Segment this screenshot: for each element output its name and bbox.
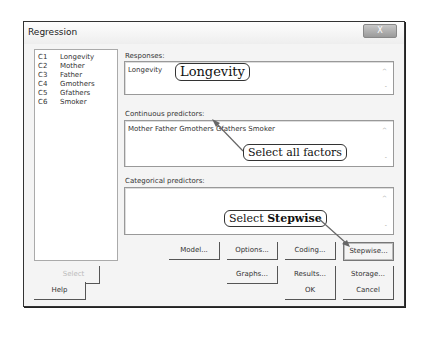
options-button[interactable]: Options... bbox=[227, 242, 278, 260]
help-button[interactable]: Help bbox=[34, 282, 86, 300]
variable-item[interactable]: C3Father bbox=[38, 71, 82, 79]
ok-button[interactable]: OK bbox=[285, 282, 336, 300]
annotation-select-stepwise: Select Stepwise bbox=[224, 210, 327, 227]
variable-item[interactable]: C4Gmothers bbox=[38, 80, 95, 88]
responses-value: Longevity bbox=[128, 66, 162, 74]
coding-button[interactable]: Coding... bbox=[285, 242, 336, 260]
scroll-up-icon[interactable]: ^ bbox=[382, 67, 387, 74]
continuous-label: Continuous predictors: bbox=[125, 110, 204, 118]
variable-item[interactable]: C6Smoker bbox=[38, 98, 87, 106]
close-button[interactable]: X bbox=[363, 24, 397, 38]
scroll-down-icon[interactable]: - bbox=[385, 221, 387, 228]
variable-item[interactable]: C1Longevity bbox=[38, 53, 94, 61]
variable-item[interactable]: C5Gfathers bbox=[38, 89, 90, 97]
variable-list[interactable]: C1Longevity C2Mother C3Father C4Gmothers… bbox=[34, 49, 118, 261]
close-icon: X bbox=[377, 26, 382, 35]
categorical-label: Categorical predictors: bbox=[125, 177, 205, 185]
scroll-up-icon[interactable]: ^ bbox=[382, 194, 387, 201]
annotation-select-factors: Select all factors bbox=[243, 144, 347, 161]
variable-item[interactable]: C2Mother bbox=[38, 62, 85, 70]
responses-input[interactable]: Longevity ^ - bbox=[124, 61, 394, 95]
window-title: Regression bbox=[28, 27, 77, 37]
cancel-button[interactable]: Cancel bbox=[343, 282, 394, 300]
annotation-longevity: Longevity bbox=[175, 63, 250, 81]
continuous-value: Mother Father Gmothers Gfathers Smoker bbox=[128, 125, 275, 133]
title-bar: Regression X bbox=[24, 22, 404, 44]
scroll-down-icon[interactable]: - bbox=[385, 153, 387, 160]
graphs-button[interactable]: Graphs... bbox=[227, 266, 278, 284]
scroll-up-icon[interactable]: ^ bbox=[382, 126, 387, 133]
responses-label: Responses: bbox=[125, 52, 165, 60]
model-button[interactable]: Model... bbox=[169, 242, 220, 260]
scroll-down-icon[interactable]: - bbox=[385, 82, 387, 89]
stepwise-button[interactable]: Stepwise... bbox=[343, 242, 394, 261]
